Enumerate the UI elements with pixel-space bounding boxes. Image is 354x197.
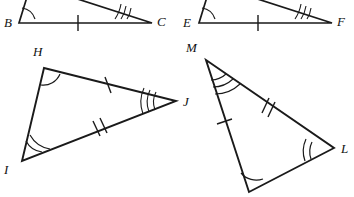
triangle-hij-outline — [22, 68, 176, 161]
vertex-label-l: L — [340, 141, 348, 156]
vertex-label-j: J — [183, 94, 190, 109]
angle-arc-h — [41, 74, 60, 85]
geometry-figure: B C E F — [0, 0, 354, 197]
angle-arcs-l — [303, 139, 312, 161]
triangle-hij: H I J — [3, 44, 190, 177]
triangle-def-outline — [199, 0, 332, 23]
triangle-mkl: M L K — [185, 40, 348, 197]
angle-arcs-i — [26, 135, 50, 152]
vertex-label-k: K — [241, 194, 252, 197]
vertex-label-c: C — [157, 14, 166, 29]
vertex-label-f: F — [336, 14, 346, 29]
triangle-abc-outline — [19, 0, 152, 23]
vertex-label-b: B — [4, 15, 12, 30]
triangle-abc: B C — [4, 0, 166, 31]
triangle-def: E F — [182, 0, 346, 31]
triangle-mkl-outline — [206, 60, 334, 192]
vertex-label-m: M — [185, 40, 198, 55]
vertex-label-i: I — [3, 162, 9, 177]
vertex-label-e: E — [182, 15, 191, 30]
vertex-label-h: H — [32, 44, 43, 59]
triangles-diagram: B C E F — [0, 0, 354, 197]
